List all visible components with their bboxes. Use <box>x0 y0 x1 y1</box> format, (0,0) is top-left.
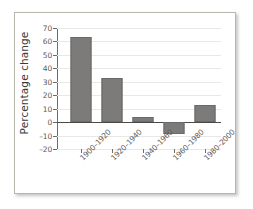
y-axis-tick-label: 30 <box>43 77 52 86</box>
y-axis-tick-label: 70 <box>43 24 52 33</box>
plot-area: 706050403020100–10–20 1900–19201920–1940… <box>57 28 221 149</box>
y-axis-tick <box>53 109 57 110</box>
gridline <box>57 149 221 150</box>
y-axis-tick-label: 20 <box>43 91 52 100</box>
y-axis-line <box>57 28 58 149</box>
bar-slot <box>96 28 127 149</box>
y-axis-tick <box>53 136 57 137</box>
bar <box>101 78 122 122</box>
y-axis-title: Percentage change <box>17 28 31 138</box>
y-axis-tick <box>53 122 57 123</box>
y-axis-tick-label: 40 <box>43 64 52 73</box>
y-axis-tick-label: –20 <box>39 145 52 154</box>
y-axis-tick-label: 50 <box>43 50 52 59</box>
y-axis-tick <box>53 82 57 83</box>
y-axis-tick <box>53 95 57 96</box>
y-axis-tick-label: 0 <box>47 118 52 127</box>
chart-figure-frame: Percentage change 706050403020100–10–20 … <box>14 12 236 194</box>
y-axis-tick <box>53 28 57 29</box>
y-axis-tick-label: –10 <box>39 131 52 140</box>
y-axis-tick-label: 10 <box>43 104 52 113</box>
bar-slot <box>127 28 158 149</box>
y-axis-tick <box>53 41 57 42</box>
bar <box>195 105 216 122</box>
y-axis-tick <box>53 68 57 69</box>
bar <box>132 117 153 122</box>
y-axis-tick <box>53 55 57 56</box>
y-axis-tick <box>53 149 57 150</box>
y-axis-tick-label: 60 <box>43 37 52 46</box>
bar-slot <box>65 28 96 149</box>
y-axis-title-label: Percentage change <box>18 32 30 135</box>
bar <box>70 37 91 122</box>
